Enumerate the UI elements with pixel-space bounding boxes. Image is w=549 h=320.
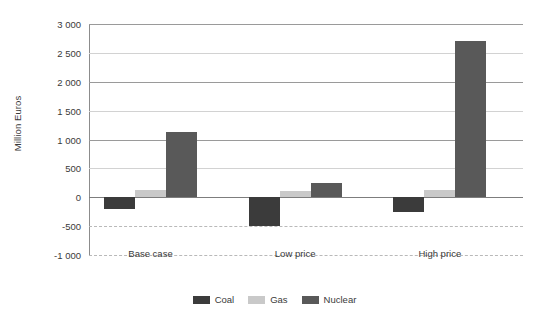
y-tick-label: -1 000 (17, 251, 81, 261)
bar-nuclear-high-price (455, 41, 486, 197)
bar-gas-base-case (135, 190, 166, 198)
bar-coal-high-price (393, 197, 424, 211)
y-tick-label: -500 (17, 222, 81, 232)
bar-gas-high-price (424, 190, 455, 197)
plot-area: 3 0002 5002 0001 5001 0005000-500-1 000 (89, 24, 523, 255)
y-tick-label: 2 500 (17, 49, 81, 59)
y-tick-label: 0 (17, 193, 81, 203)
legend-swatch-gas-icon (248, 296, 265, 304)
bar-chart: Million Euros 3 0002 5002 0001 5001 0005… (0, 0, 549, 320)
y-tick-label: 1 000 (17, 136, 81, 146)
legend-swatch-coal-icon (193, 296, 210, 304)
x-tick-label-low-price: Low price (275, 248, 316, 259)
bar-gas-low-price (280, 191, 311, 197)
gridline-3000: 3 000 (89, 24, 523, 25)
bar-nuclear-base-case (166, 132, 197, 197)
chart-legend: CoalGasNuclear (0, 294, 549, 305)
y-tick-label: 1 500 (17, 107, 81, 117)
bar-nuclear-low-price (311, 183, 342, 197)
legend-item-coal[interactable]: Coal (193, 294, 235, 305)
gridline--500: -500 (89, 226, 523, 227)
legend-item-nuclear[interactable]: Nuclear (302, 294, 357, 305)
bar-coal-low-price (249, 197, 280, 226)
legend-label: Coal (215, 294, 235, 305)
y-tick-label: 500 (17, 164, 81, 174)
legend-label: Gas (270, 294, 287, 305)
legend-label: Nuclear (324, 294, 357, 305)
x-tick-label-base-case: Base case (128, 248, 172, 259)
bar-coal-base-case (104, 197, 135, 209)
gridline-0: 0 (89, 197, 523, 198)
legend-item-gas[interactable]: Gas (248, 294, 287, 305)
y-tick-label: 3 000 (17, 20, 81, 30)
x-tick-label-high-price: High price (418, 248, 461, 259)
legend-swatch-nuclear-icon (302, 296, 319, 304)
y-tick-label: 2 000 (17, 78, 81, 88)
